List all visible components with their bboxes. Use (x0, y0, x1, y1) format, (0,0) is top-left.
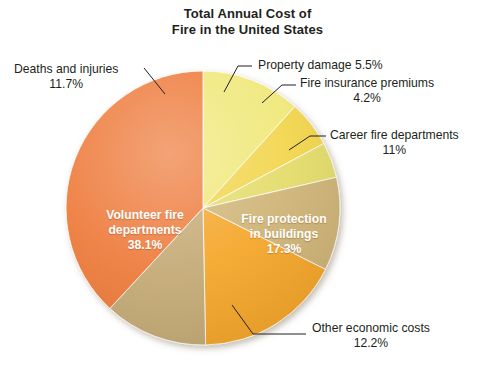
slice-label-volunteer-line2: departments (85, 223, 205, 238)
callout-insurance-value: 4.2% (300, 91, 434, 106)
callout-other-value: 12.2% (312, 336, 430, 351)
slice-label-volunteer-fire-departments: Volunteer fire departments 38.1% (85, 208, 205, 253)
callout-other-label: Other economic costs (312, 321, 430, 335)
callout-deaths-label: Deaths and injuries (14, 62, 118, 76)
callout-other-economic-costs: Other economic costs 12.2% (312, 321, 430, 350)
slice-label-protection-line2: in buildings (228, 227, 340, 242)
slice-label-volunteer-line1: Volunteer fire (85, 208, 205, 223)
callout-fire-insurance-premiums: Fire insurance premiums 4.2% (300, 76, 434, 105)
callout-deaths-and-injuries: Deaths and injuries 11.7% (14, 62, 118, 91)
callout-career-value: 11% (330, 143, 459, 158)
callout-career-fire-departments: Career fire departments 11% (330, 128, 459, 157)
callout-career-label: Career fire departments (330, 128, 459, 142)
slice-label-volunteer-value: 38.1% (85, 238, 205, 253)
slice-label-protection-line1: Fire protection (228, 212, 340, 227)
callout-property-label: Property damage 5.5% (258, 58, 383, 72)
pie-chart (0, 0, 495, 369)
slice-label-protection-value: 17.3% (228, 242, 340, 257)
callout-deaths-value: 11.7% (14, 77, 118, 92)
callout-property-damage: Property damage 5.5% (258, 58, 383, 73)
slice-label-fire-protection-in-buildings: Fire protection in buildings 17.3% (228, 212, 340, 257)
callout-insurance-label: Fire insurance premiums (300, 76, 434, 90)
chart-canvas: Total Annual Cost of Fire in the United … (0, 0, 495, 369)
